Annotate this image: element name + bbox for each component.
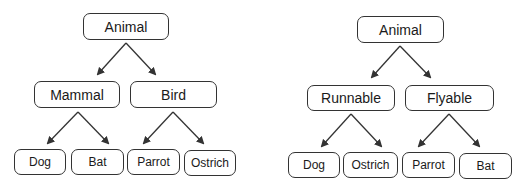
- left-leaf-parrot: Parrot: [127, 149, 180, 175]
- node-label: Animal: [105, 19, 148, 35]
- node-label: Dog: [29, 155, 51, 169]
- node-label: Bat: [88, 155, 106, 169]
- right-flyable-node: Flyable: [405, 85, 494, 111]
- node-label: Mammal: [50, 87, 104, 103]
- left-leaf-bat: Bat: [71, 149, 124, 175]
- left-leaf-ostrich: Ostrich: [184, 150, 236, 176]
- left-root-node: Animal: [83, 13, 169, 40]
- node-label: Animal: [379, 22, 422, 38]
- node-label: Dog: [303, 158, 325, 172]
- right-leaf-dog: Dog: [288, 152, 340, 178]
- right-leaf-ostrich: Ostrich: [343, 152, 398, 178]
- right-leaf-bat: Bat: [459, 153, 512, 179]
- node-label: Bird: [161, 87, 186, 103]
- left-leaf-dog: Dog: [14, 149, 66, 175]
- right-runnable-node: Runnable: [307, 85, 395, 111]
- node-label: Ostrich: [351, 158, 389, 172]
- left-bird-node: Bird: [130, 81, 217, 108]
- node-label: Parrot: [412, 158, 445, 172]
- node-label: Runnable: [321, 90, 381, 106]
- node-label: Parrot: [137, 155, 170, 169]
- node-label: Flyable: [427, 90, 472, 106]
- right-root-node: Animal: [357, 16, 444, 43]
- right-leaf-parrot: Parrot: [402, 152, 455, 178]
- node-label: Bat: [476, 159, 494, 173]
- left-mammal-node: Mammal: [34, 81, 120, 108]
- node-label: Ostrich: [191, 156, 229, 170]
